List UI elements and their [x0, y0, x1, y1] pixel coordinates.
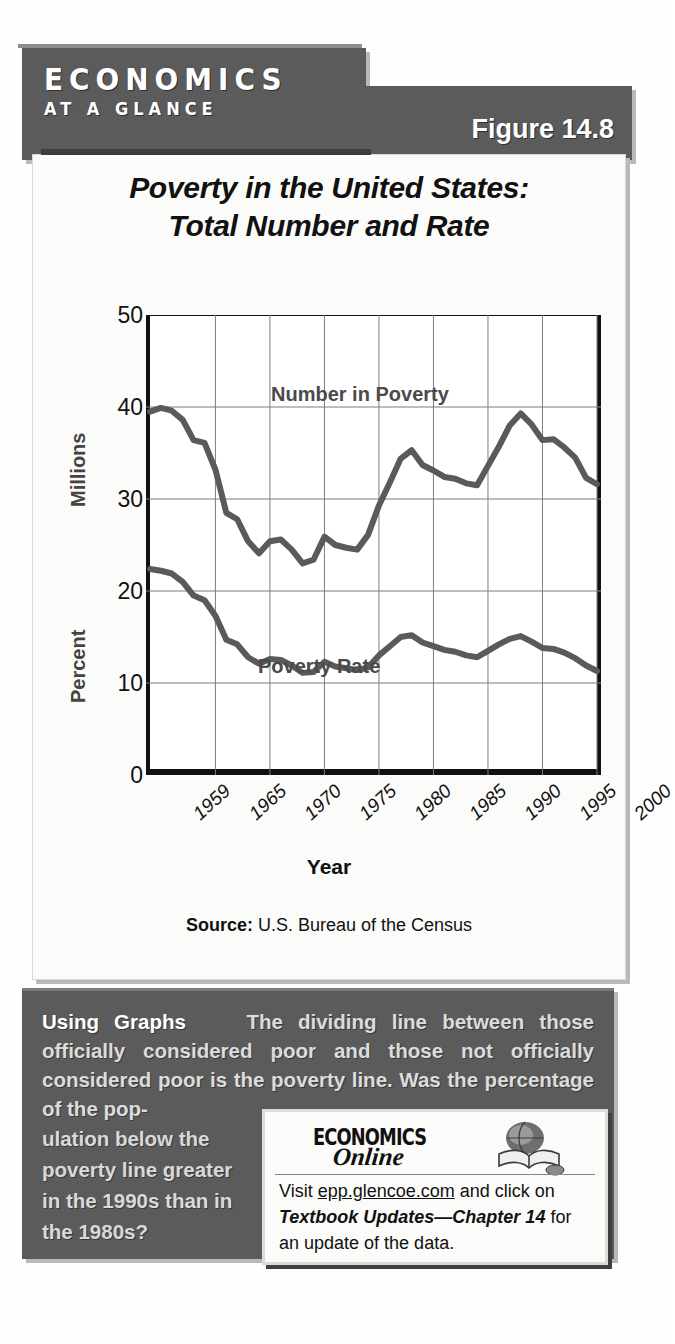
x-tick: 1970	[300, 780, 346, 825]
x-tick: 1990	[520, 780, 566, 825]
online-mid: and click on	[455, 1181, 555, 1201]
caption-block: Using Graphs The dividing line between t…	[22, 988, 614, 1259]
online-instructions: Visit epp.glencoe.com and click on Textb…	[279, 1178, 591, 1256]
y-axis-label-percent: Percent	[67, 630, 90, 703]
x-axis-ticks: 1959 1965 1970 1975 1980 1985 1990 1995 …	[146, 780, 606, 860]
logo-divider	[275, 1174, 595, 1175]
chart-title-line2: Total Number and Rate	[33, 207, 625, 245]
brand-lockup: ECONOMICS AT A GLANCE	[44, 62, 288, 120]
caption-lead: Using Graphs	[42, 1010, 186, 1033]
y-tick: 50	[93, 302, 143, 329]
visit-prefix: Visit	[279, 1181, 318, 1201]
source-note: Source: U.S. Bureau of the Census	[33, 915, 625, 936]
source-text: U.S. Bureau of the Census	[253, 915, 472, 935]
brand-economics: ECONOMICS	[44, 62, 288, 96]
y-tick: 0	[93, 762, 143, 789]
y-tick: 20	[93, 578, 143, 605]
x-tick: 2000	[630, 780, 675, 825]
caption-tail: ulation below the poverty line greater i…	[42, 1123, 247, 1247]
economics-at-a-glance-figure: ECONOMICS AT A GLANCE Figure 14.8 Povert…	[22, 48, 632, 1258]
chart-title: Poverty in the United States: Total Numb…	[33, 169, 625, 245]
figure-number: Figure 14.8	[471, 114, 614, 145]
economics-online-box: ECONOMICS Online Visit epp.glencoe.com a…	[262, 1109, 608, 1265]
x-tick: 1985	[465, 780, 511, 825]
y-tick: 40	[93, 394, 143, 421]
online-emphasis: Textbook Updates—Chapter 14	[279, 1207, 545, 1227]
y-tick: 10	[93, 670, 143, 697]
economics-online-logo: ECONOMICS Online	[265, 1118, 605, 1176]
series-label-number: Number in Poverty	[271, 383, 449, 406]
x-tick: 1980	[410, 780, 456, 825]
y-axis-ticks: 50 40 30 20 10 0	[88, 305, 143, 785]
figure-banner: ECONOMICS AT A GLANCE Figure 14.8	[22, 48, 632, 160]
chart-panel: Poverty in the United States: Total Numb…	[32, 154, 626, 980]
y-axis-label-millions: Millions	[67, 433, 90, 507]
logo-online-text: Online	[332, 1143, 406, 1171]
caption-main: Using Graphs The dividing line between t…	[42, 1007, 594, 1123]
plot-area: Number in Poverty Poverty Rate	[146, 315, 601, 775]
source-prefix: Source:	[186, 915, 253, 935]
x-axis-label: Year	[33, 855, 625, 879]
x-tick: 1965	[245, 780, 291, 825]
chart-title-line1: Poverty in the United States:	[33, 169, 625, 207]
globe-book-icon	[481, 1120, 577, 1176]
online-url-link[interactable]: epp.glencoe.com	[318, 1181, 455, 1201]
x-tick: 1975	[355, 780, 401, 825]
brand-at-a-glance: AT A GLANCE	[44, 98, 288, 120]
series-line-number-in-poverty	[150, 408, 597, 563]
x-tick: 1995	[575, 780, 621, 825]
x-tick: 1959	[189, 780, 235, 825]
y-tick: 30	[93, 486, 143, 513]
series-label-rate: Poverty Rate	[258, 655, 380, 678]
